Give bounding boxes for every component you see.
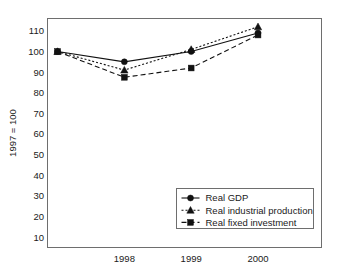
chart-figure: 102030405060708090100110 199819992000 19… [0,0,341,276]
x-tick-label: 2000 [247,253,268,264]
y-axis-title: 1997 = 100 [7,109,18,157]
circle-marker-icon [121,59,127,65]
line-chart: 102030405060708090100110 199819992000 19… [0,0,341,276]
y-tick-label: 100 [28,46,44,57]
y-tick-label: 110 [29,25,44,36]
chart-background [0,0,341,276]
legend-label: Real GDP [206,192,249,203]
y-tick-label: 10 [33,232,44,243]
y-tick-label: 40 [33,170,44,181]
x-tick-label: 1998 [114,253,135,264]
legend-label: Real industrial production [206,205,313,216]
y-tick-label: 80 [33,87,44,98]
x-tick-label: 1999 [181,253,202,264]
y-tick-label: 20 [33,211,44,222]
chart-legend: Real GDPReal industrial productionReal f… [177,189,314,229]
legend-label: Real fixed investment [206,217,297,228]
y-tick-label: 60 [33,128,44,139]
square-marker-icon [188,220,194,226]
y-tick-label: 50 [33,149,44,160]
y-tick-label: 70 [33,108,44,119]
y-tick-label: 30 [33,190,44,201]
y-tick-label: 90 [33,67,44,78]
circle-marker-icon [188,195,194,201]
square-marker-icon [121,74,127,80]
square-marker-icon [188,65,194,71]
square-marker-icon [55,49,61,55]
square-marker-icon [255,32,261,38]
